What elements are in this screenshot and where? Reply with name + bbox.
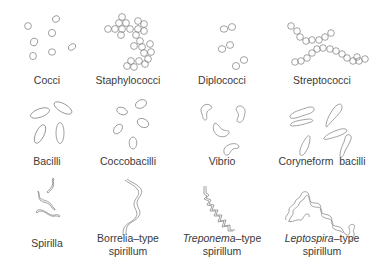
diplococci-illustration xyxy=(218,24,247,70)
label-borrelia-line2: spirillum xyxy=(97,245,159,258)
label-coccobacilli: Coccobacilli xyxy=(100,155,156,168)
borrelia-illustration xyxy=(123,179,142,235)
label-vibrio: Vibrio xyxy=(209,155,236,168)
cocci-illustration xyxy=(25,15,77,60)
label-streptococci: Streptococci xyxy=(293,74,351,87)
label-leptospira-line2: spirillum xyxy=(285,245,360,258)
label-coryneform: Coryneform bacilli xyxy=(279,155,366,168)
treponema-illustration xyxy=(204,186,235,231)
label-leptospira-genus: Leptospira xyxy=(285,232,334,244)
label-bacilli: Bacilli xyxy=(33,155,60,168)
coccobacilli-illustration xyxy=(112,98,151,149)
label-spirilla: Spirilla xyxy=(31,237,63,250)
label-treponema-line1: Treponema–type xyxy=(183,232,262,245)
label-diplococci: Diplococci xyxy=(198,74,246,87)
label-leptospira-suffix: –type xyxy=(334,232,360,244)
bacilli-illustration xyxy=(29,99,74,144)
label-treponema: Treponema–type spirillum xyxy=(183,232,262,258)
staphylococci-illustration xyxy=(105,14,155,71)
label-borrelia: Borrelia–type spirillum xyxy=(97,232,159,258)
streptococci-illustration xyxy=(288,23,369,66)
label-borrelia-line1: Borrelia–type xyxy=(97,232,159,245)
label-staphylococci: Staphylococci xyxy=(96,74,161,87)
label-treponema-line2: spirillum xyxy=(183,245,262,258)
label-cocci: Cocci xyxy=(34,74,60,87)
spirilla-illustration xyxy=(36,178,60,217)
label-leptospira-line1: Leptospira–type xyxy=(285,232,360,245)
label-treponema-suffix: –type xyxy=(236,232,262,244)
vibrio-illustration xyxy=(201,104,245,155)
label-treponema-genus: Treponema xyxy=(183,232,236,244)
coryneform-illustration xyxy=(290,104,351,157)
label-leptospira: Leptospira–type spirillum xyxy=(285,232,360,258)
